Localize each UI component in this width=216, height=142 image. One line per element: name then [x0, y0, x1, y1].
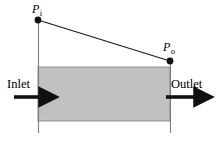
pressure-outlet-dot	[167, 58, 174, 65]
pressure-gradient-line	[38, 20, 170, 61]
pressure-drop-duct-diagram: Pi Po Inlet Outlet	[0, 0, 216, 142]
inlet-label: Inlet	[7, 78, 30, 91]
pressure-inlet-symbol: P	[32, 2, 39, 16]
duct-texture	[38, 67, 170, 121]
pressure-inlet-subscript: i	[40, 8, 42, 18]
outlet-label: Outlet	[171, 78, 202, 91]
duct-body	[38, 67, 170, 121]
pressure-inlet-label: Pi	[32, 3, 42, 15]
diagram-canvas	[0, 0, 216, 142]
pressure-outlet-subscript: o	[171, 46, 175, 56]
pressure-outlet-symbol: P	[163, 40, 170, 54]
pressure-outlet-label: Po	[163, 41, 175, 53]
